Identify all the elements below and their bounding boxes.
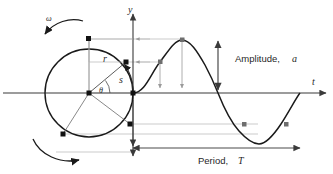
diagram-canvas: ω r s θ y t Amplitude, a Period, T — [0, 0, 333, 174]
circle-marker-upper-right — [124, 60, 129, 65]
omega-label: ω — [46, 14, 52, 23]
circle-marker-lower-left — [61, 132, 66, 137]
y-axis-label: y — [127, 4, 133, 15]
radius-label: r — [103, 53, 107, 64]
arc-length-label: s — [119, 74, 123, 85]
theta-arc — [106, 81, 111, 94]
circle-centre-marker — [87, 91, 92, 96]
bottom-rotation-arrow — [33, 139, 79, 161]
radius-line-lower-right — [89, 93, 130, 124]
period-label: Period, — [198, 155, 228, 166]
curve-marker-rising — [158, 60, 163, 65]
curve-marker-origin — [131, 91, 136, 96]
projection-guides — [56, 39, 258, 152]
axes-group — [3, 14, 326, 156]
period-symbol-label: T — [238, 155, 245, 166]
curve-marker-ascending — [284, 122, 289, 127]
amplitude-symbol-label: a — [292, 53, 297, 64]
circle-marker-top — [86, 36, 91, 41]
curve-marker-peak — [180, 38, 185, 43]
curve-marker-descending — [242, 122, 247, 127]
sine-wave-circle-diagram: ω r s θ y t Amplitude, a Period, T — [0, 0, 333, 174]
reference-circle-group — [33, 20, 133, 161]
amplitude-label: Amplitude, — [235, 53, 280, 64]
circle-marker-lower-right — [128, 122, 133, 127]
theta-label: θ — [99, 86, 103, 95]
radius-line-lower-left — [63, 93, 89, 134]
t-axis-label: t — [312, 76, 315, 87]
